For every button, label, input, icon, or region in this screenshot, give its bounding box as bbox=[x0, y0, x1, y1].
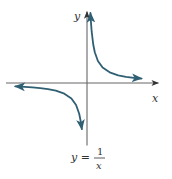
x-axis-label: x bbox=[152, 92, 159, 105]
series-layer bbox=[15, 13, 141, 129]
function-caption: y = 1 x bbox=[70, 146, 105, 171]
curve-branch-positive bbox=[90, 13, 141, 79]
caption-denominator: x bbox=[96, 160, 102, 171]
caption-lhs: y = bbox=[70, 151, 90, 164]
caption-numerator: 1 bbox=[97, 146, 103, 157]
curve-branch-negative bbox=[15, 86, 82, 129]
y-axis-label: y bbox=[73, 10, 81, 23]
chart: x y y = 1 x bbox=[0, 0, 172, 179]
